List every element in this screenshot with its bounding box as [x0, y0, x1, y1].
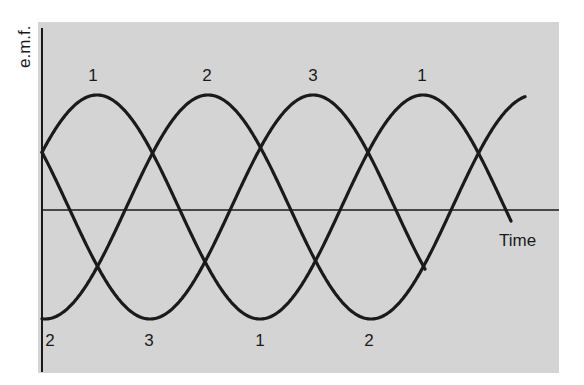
three-phase-emf-diagram: e.m.f. 1 2 3 1 2 3 1 2 Time: [0, 0, 584, 385]
phase-1-curve: [42, 95, 511, 319]
trough-label: 1: [255, 331, 264, 350]
trough-label: 2: [364, 331, 373, 350]
phase-2-curve: [42, 95, 525, 319]
waveform-plot: 1 2 3 1 2 3 1 2 Time: [0, 0, 584, 385]
peak-label: 1: [88, 66, 97, 85]
phase-3-curve: [42, 95, 425, 319]
peak-label: 1: [417, 66, 426, 85]
peak-label: 2: [202, 66, 211, 85]
x-axis-label: Time: [499, 231, 536, 250]
trough-label: 3: [144, 331, 153, 350]
peak-label: 3: [308, 66, 317, 85]
trough-label: 2: [45, 331, 54, 350]
